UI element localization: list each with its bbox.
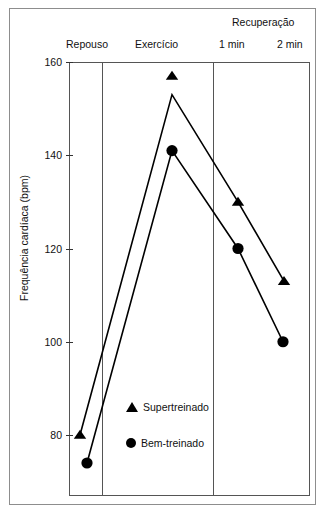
triangle-marker xyxy=(232,197,244,206)
circle-marker xyxy=(232,243,243,254)
heart-rate-figure: Recuperação Repouso Exercício 1 min 2 mi… xyxy=(0,0,325,519)
circle-marker xyxy=(81,457,92,468)
circle-marker xyxy=(166,145,177,156)
series-line-2 xyxy=(87,151,283,463)
triangle-marker-icon xyxy=(126,402,138,412)
legend-item-bem-treinado: Bem-treinado xyxy=(126,437,204,449)
triangle-marker xyxy=(166,71,178,80)
triangle-marker xyxy=(278,276,290,285)
legend-item-supertreinado: Supertreinado xyxy=(126,401,209,413)
circle-marker xyxy=(277,336,288,347)
circle-marker-icon xyxy=(126,438,136,448)
series-line-1 xyxy=(80,95,284,435)
legend-label-supertreinado: Supertreinado xyxy=(143,401,209,413)
legend-label-bem-treinado: Bem-treinado xyxy=(141,437,204,449)
triangle-marker xyxy=(74,430,86,439)
